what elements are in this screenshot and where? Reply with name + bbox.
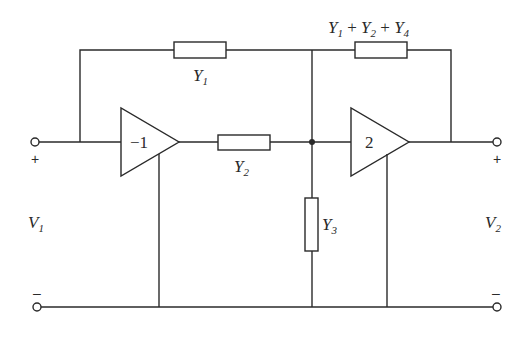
input-minus-sign: – [33,285,41,301]
admittance-y1-y2-y4 [355,42,407,58]
input-minus-terminal [33,303,41,311]
label-y3: Y3 [322,215,337,236]
y3-branch [305,50,318,307]
admittance-y3 [305,198,318,251]
label-v1: V1 [28,213,44,234]
label-y1: Y1 [193,66,208,87]
output-minus-terminal [493,303,501,311]
input-plus-terminal [31,138,39,146]
output-minus-sign: – [492,285,500,301]
junction-node [309,139,315,145]
y1-branch [80,42,312,142]
admittance-y2 [218,135,270,150]
signal-path [39,135,493,150]
admittance-y1 [174,42,226,58]
label-y2: Y2 [234,157,249,178]
output-plus-terminal [493,138,501,146]
circuit-diagram: Y1 Y2 Y3 Y1 + Y2 + Y4 −1 2 V1 V2 + + – – [0,0,529,340]
output-plus-sign: + [493,151,501,167]
gain-label-amp1: −1 [130,133,148,152]
label-y1-y2-y4: Y1 + Y2 + Y4 [328,18,410,39]
amplifier-two [351,108,409,307]
label-v2: V2 [485,213,501,234]
gain-label-amp2: 2 [365,133,374,152]
input-plus-sign: + [31,151,39,167]
